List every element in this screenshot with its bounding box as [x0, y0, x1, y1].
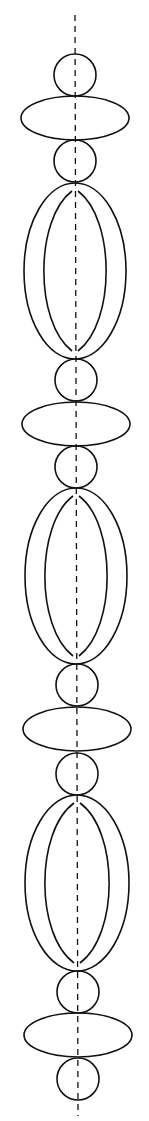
inner-lens-right-arc [79, 496, 107, 656]
inner-lens-right-arc [80, 803, 109, 963]
large-oval-outer [24, 183, 126, 359]
large-oval-group [24, 183, 126, 359]
inner-lens-left-arc [44, 191, 72, 351]
ornamental-column-drawing [0, 0, 149, 1121]
dashed-centerline [75, 15, 78, 1116]
inner-lens-right-arc [78, 191, 106, 351]
diagram-canvas: Stacked circles, ellipses and ovals alon… [0, 0, 149, 1121]
inner-lens-left-arc [45, 803, 74, 963]
inner-lens-left-arc [45, 496, 73, 656]
